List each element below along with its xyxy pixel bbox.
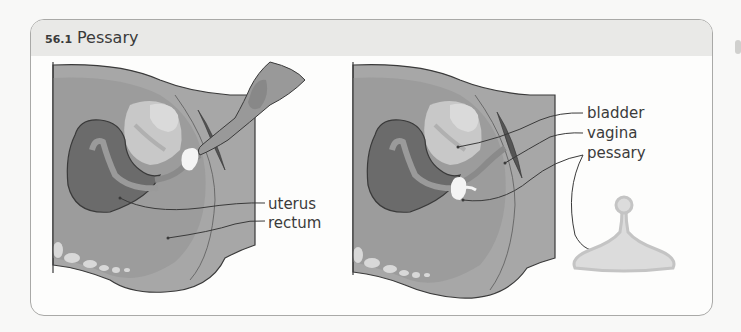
label-vagina: vagina	[587, 126, 637, 141]
label-pessary: pessary	[587, 146, 646, 161]
anatomy-illustrations	[0, 0, 741, 332]
pessary-device	[571, 155, 674, 271]
right-pelvis-diagram	[353, 62, 583, 298]
label-bladder: bladder	[587, 106, 644, 121]
left-pelvis-diagram	[53, 62, 305, 292]
label-rectum: rectum	[268, 216, 321, 231]
label-uterus: uterus	[268, 197, 316, 212]
page-edge-mark	[735, 40, 741, 54]
